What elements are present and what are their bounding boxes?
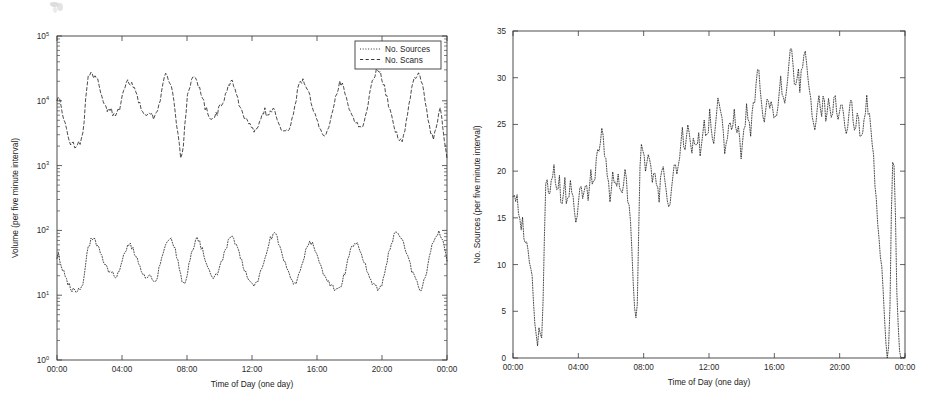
x-tick-label: 00:00 [47, 365, 68, 374]
y-tick-label: 15 [497, 214, 507, 223]
x-tick-label: 00:00 [437, 365, 458, 374]
series-no-scans [57, 69, 447, 159]
y-tick-label: 20 [497, 167, 507, 176]
y-tick-label: 100 [37, 355, 49, 365]
legend-label: No. Scans [385, 56, 423, 65]
x-axis-title: Time of Day (one day) [668, 377, 751, 387]
x-tick-label: 16:00 [764, 363, 785, 372]
x-tick-label: 12:00 [242, 365, 263, 374]
y-tick-label: 102 [37, 225, 49, 235]
x-tick-label: 00:00 [503, 363, 524, 372]
y-tick-label: 25 [497, 120, 507, 129]
y-tick-label: 104 [37, 95, 49, 105]
x-tick-label: 08:00 [177, 365, 198, 374]
right-chart-svg: 0510152025303500:0004:0008:0012:0016:002… [465, 0, 930, 406]
y-axis-title: No. Sources (per five minute interval) [472, 125, 482, 263]
figure-root: 10010110210310410500:0004:0008:0012:0016… [0, 0, 930, 406]
left-chart-svg: 10010110210310410500:0004:0008:0012:0016… [0, 0, 465, 406]
x-tick-label: 20:00 [372, 365, 393, 374]
x-tick-label: 16:00 [307, 365, 328, 374]
y-tick-label: 10 [497, 261, 507, 270]
right-plot-frame [513, 31, 905, 358]
y-tick-label: 103 [37, 160, 49, 170]
x-tick-label: 00:00 [895, 363, 916, 372]
x-tick-label: 08:00 [633, 363, 654, 372]
left-plot-frame [57, 36, 447, 360]
chart-panel-right: 0510152025303500:0004:0008:0012:0016:002… [465, 0, 930, 406]
x-tick-label: 04:00 [112, 365, 133, 374]
x-tick-label: 12:00 [699, 363, 720, 372]
y-tick-label: 0 [501, 354, 506, 363]
series-no-sources [57, 231, 447, 293]
y-tick-label: 105 [37, 31, 49, 41]
x-tick-label: 04:00 [568, 363, 589, 372]
x-tick-label: 20:00 [829, 363, 850, 372]
chart-panel-left: 10010110210310410500:0004:0008:0012:0016… [0, 0, 465, 406]
y-axis-title: Volume (per five minute interval) [10, 138, 20, 258]
y-tick-label: 101 [37, 290, 49, 300]
series-no-sources [513, 49, 905, 358]
legend-label: No. Sources [385, 45, 430, 54]
left-chart-legend: No. SourcesNo. Scans [355, 41, 441, 69]
x-axis-title: Time of Day (one day) [211, 379, 294, 389]
y-tick-label: 30 [497, 74, 507, 83]
y-tick-label: 5 [501, 307, 506, 316]
y-tick-label: 35 [497, 27, 507, 36]
